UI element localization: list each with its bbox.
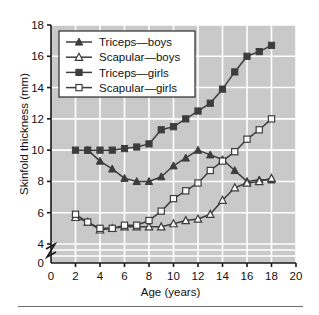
marker-square-open (146, 217, 152, 223)
marker-square-filled (244, 53, 250, 59)
figure-container: 0468101214161802468101214161820Triceps—b… (0, 0, 319, 315)
marker-square-open (195, 180, 201, 186)
marker-square-filled (158, 127, 164, 133)
marker-square-open (170, 196, 176, 202)
marker-square-filled (72, 147, 78, 153)
marker-square-open (97, 225, 103, 231)
x-axis-label: Age (years) (0, 286, 319, 298)
marker-square-open (244, 136, 250, 142)
x-tick-label: 18 (265, 270, 278, 282)
y-tick-label: 18 (31, 19, 44, 31)
marker-square-open (219, 158, 225, 164)
marker-square-filled (195, 108, 201, 114)
marker-square-open (76, 85, 82, 91)
y-tick-label: 10 (31, 144, 44, 156)
marker-square-open (232, 149, 238, 155)
marker-square-open (72, 211, 78, 217)
x-tick-label: 8 (146, 270, 152, 282)
marker-square-open (109, 225, 115, 231)
legend-label-1: Triceps—boys (99, 36, 172, 48)
x-tick-label: 6 (121, 270, 127, 282)
marker-square-open (121, 222, 127, 228)
marker-square-filled (268, 42, 274, 48)
x-tick-label: 14 (216, 270, 229, 282)
x-axis-label-text: Age (years) (119, 286, 200, 298)
marker-square-filled (146, 141, 152, 147)
x-tick-label: 4 (97, 270, 104, 282)
marker-square-open (134, 222, 140, 228)
marker-square-filled (85, 147, 91, 153)
legend-label-3: Triceps—girls (99, 67, 169, 79)
y-tick-label: 14 (31, 82, 44, 94)
x-tick-label: 0 (48, 270, 54, 282)
skinfold-thickness-line-chart: 0468101214161802468101214161820Triceps—b… (0, 0, 319, 315)
footer-divider (18, 306, 303, 307)
y-tick-label: 4 (38, 238, 45, 250)
marker-square-open (158, 208, 164, 214)
legend-label-4: Scapular—girls (99, 82, 177, 94)
y-tick-label: 6 (38, 207, 44, 219)
y-tick-label: 0 (38, 257, 44, 269)
marker-square-open (256, 127, 262, 133)
marker-square-open (207, 167, 213, 173)
y-tick-label: 8 (38, 175, 44, 187)
y-axis-label: Skinfold thickness (mm) (18, 24, 30, 244)
x-tick-label: 20 (290, 270, 303, 282)
marker-square-filled (134, 144, 140, 150)
x-tick-label: 10 (167, 270, 180, 282)
marker-square-filled (207, 100, 213, 106)
x-tick-label: 16 (241, 270, 254, 282)
x-tick-label: 2 (72, 270, 78, 282)
y-tick-label: 12 (31, 113, 44, 125)
marker-square-filled (183, 116, 189, 122)
marker-square-open (183, 188, 189, 194)
marker-square-filled (121, 145, 127, 151)
marker-square-filled (76, 69, 82, 75)
marker-square-open (268, 116, 274, 122)
marker-square-filled (232, 69, 238, 75)
marker-square-filled (219, 86, 225, 92)
y-tick-label: 16 (31, 50, 44, 62)
marker-square-filled (109, 147, 115, 153)
marker-square-filled (97, 147, 103, 153)
marker-square-open (85, 219, 91, 225)
marker-square-filled (256, 48, 262, 54)
marker-square-filled (170, 124, 176, 130)
legend: Triceps—boysScapular—boysTriceps—girlsSc… (59, 31, 195, 97)
x-tick-label: 12 (192, 270, 205, 282)
legend-label-2: Scapular—boys (99, 51, 180, 63)
